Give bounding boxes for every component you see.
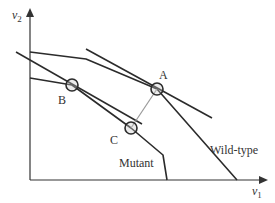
point-a xyxy=(151,83,163,95)
mutant-label: Mutant xyxy=(119,156,154,170)
constraint-line-upper xyxy=(86,49,212,118)
flux-cone-diagram: A B C Wild-type Mutant v2 v1 xyxy=(0,0,275,203)
constraint-line-lower xyxy=(16,52,142,124)
x-axis-arrow-icon xyxy=(259,176,268,184)
point-b-label: B xyxy=(58,93,66,107)
point-a-label: A xyxy=(159,68,168,82)
point-b xyxy=(66,79,78,91)
connector-c-a xyxy=(131,89,157,128)
diagram-canvas: A B C Wild-type Mutant v2 v1 xyxy=(0,0,275,203)
wild-type-label: Wild-type xyxy=(210,143,258,157)
point-c-label: C xyxy=(110,133,118,147)
x-axis-label: v1 xyxy=(252,184,262,200)
y-axis-label: v2 xyxy=(12,8,22,24)
point-c xyxy=(125,122,137,134)
y-axis-arrow-icon xyxy=(26,8,34,17)
